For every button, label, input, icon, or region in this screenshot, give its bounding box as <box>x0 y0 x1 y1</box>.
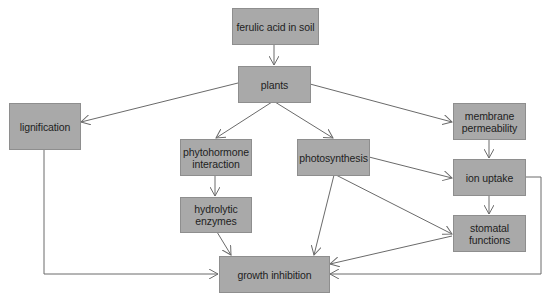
edge-photosynthesis-to-growth <box>314 175 334 255</box>
node-label-line1: stomatal <box>470 222 509 234</box>
node-ferulic-acid-in-soil: ferulic acid in soil <box>232 8 319 45</box>
node-label: ferulic acid in soil <box>237 21 315 33</box>
node-photosynthesis: photosynthesis <box>297 139 370 176</box>
node-lignification: lignification <box>9 103 81 150</box>
edge-plants-to-photosynthesis <box>275 102 333 138</box>
node-growth-inhibition: growth inhibition <box>219 256 330 293</box>
node-hydrolytic-enzymes: hydrolytic enzymes <box>180 197 252 233</box>
edge-stomatal-to-growth <box>330 236 452 264</box>
node-plants: plants <box>238 66 311 103</box>
node-stomatal-functions: stomatal functions <box>453 215 526 252</box>
edge-plants-to-membrane <box>310 84 452 122</box>
edge-plants-to-phytohormone <box>216 102 272 138</box>
node-phytohormone-interaction: phytohormone interaction <box>180 139 252 176</box>
node-label-line2: interaction <box>192 158 239 170</box>
edge-photosynthesis-to-ion-uptake <box>369 157 452 178</box>
edge-photosynthesis-to-stomatal <box>336 175 452 234</box>
node-label: plants <box>261 79 288 91</box>
node-label: ion uptake <box>466 172 513 184</box>
node-label: photosynthesis <box>299 152 368 164</box>
node-label-line1: phytohormone <box>183 146 249 158</box>
edge-plants-to-lignification <box>81 83 238 122</box>
node-label-line2: functions <box>469 234 510 246</box>
edge-hydrolytic-to-growth <box>217 232 231 255</box>
edges-layer <box>0 0 549 300</box>
node-label-line2: permeability <box>462 122 517 134</box>
node-membrane-permeability: membrane permeability <box>453 103 526 140</box>
node-label-line1: membrane <box>465 110 514 122</box>
node-label: growth inhibition <box>237 269 311 281</box>
node-label-line1: hydrolytic <box>194 203 237 215</box>
node-label-line2: enzymes <box>195 215 236 227</box>
node-label: lignification <box>20 121 71 133</box>
node-ion-uptake: ion uptake <box>453 159 526 196</box>
